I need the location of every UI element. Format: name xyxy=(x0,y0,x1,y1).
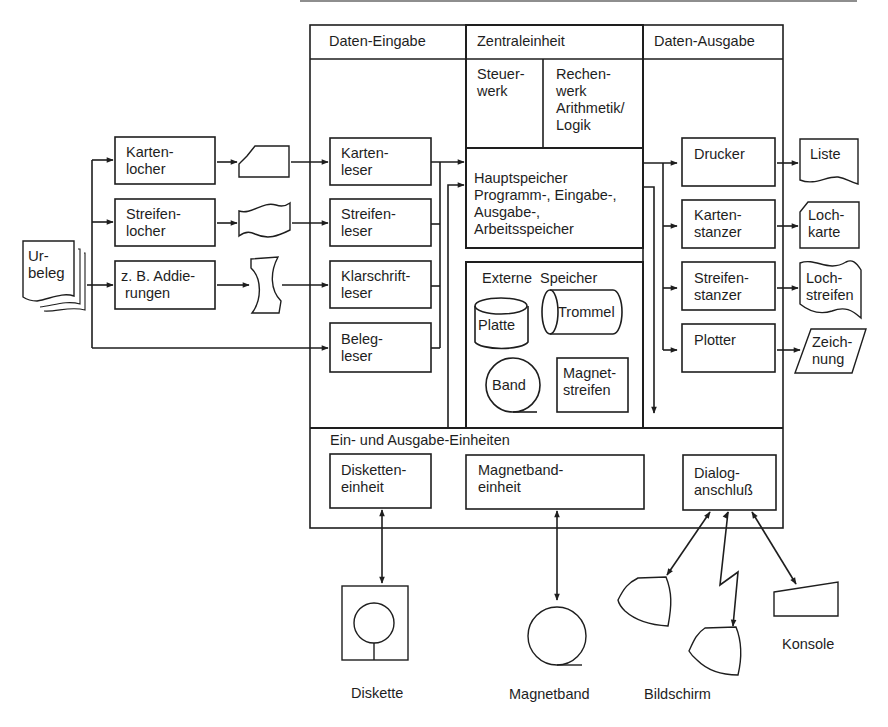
output-section-header: Daten-Ausgabe xyxy=(654,33,755,50)
computer-architecture-diagram xyxy=(0,0,888,727)
tape-punch-label: Streifen- locher xyxy=(126,206,181,240)
printer-label: Drucker xyxy=(694,146,745,163)
magnetic-strip-label: Magnet- streifen xyxy=(563,365,616,399)
source-document-label: Ur- beleg xyxy=(28,247,65,281)
tape-unit-label: Magnetband- einheit xyxy=(478,462,563,496)
console-label: Konsole xyxy=(782,636,834,653)
drawing-output-label: Zeich- nung xyxy=(812,334,852,368)
screen-label: Bildschirm xyxy=(644,686,711,703)
tape-reel-label: Band xyxy=(492,377,526,394)
magnetic-tape-label: Magnetband xyxy=(509,686,590,703)
disk-icon-top xyxy=(475,298,527,314)
punched-card-output-label: Loch- karte xyxy=(808,207,844,241)
drum-icon-end xyxy=(542,290,558,334)
adding-machine-label: z. B. Addie- rungen xyxy=(121,268,195,302)
drum-label: Trommel xyxy=(558,304,615,321)
punched-card-icon xyxy=(239,146,289,177)
ocr-reader-label: Klarschrift- leser xyxy=(341,268,410,302)
magnetic-tape-icon xyxy=(528,607,586,665)
disk-label: Platte xyxy=(478,317,515,334)
document-reader-label: Beleg- leser xyxy=(341,331,383,365)
punched-tape-output-label: Loch- streifen xyxy=(806,270,854,304)
paper-strip-icon xyxy=(251,257,281,313)
card-punch-label: Karten- locher xyxy=(126,144,174,178)
external-storage-title: Externe Speicher xyxy=(482,270,597,287)
io-to-memory-line xyxy=(448,185,464,428)
dialog-port-label: Dialog- anschluß xyxy=(694,465,753,499)
plotter-label: Plotter xyxy=(694,332,736,349)
main-memory-label: Hauptspeicher Programm-, Eingabe-, Ausga… xyxy=(474,170,617,238)
io-section-header: Ein- und Ausgabe-Einheiten xyxy=(330,432,510,449)
cpu-section-header: Zentraleinheit xyxy=(477,33,565,50)
tape-punch-out-label: Streifen- stanzer xyxy=(694,270,749,304)
screen-icon xyxy=(618,577,671,626)
punched-tape-icon xyxy=(239,203,290,237)
tape-reader-label: Streifen- leser xyxy=(341,206,396,240)
diskette-unit-label: Disketten- einheit xyxy=(341,462,406,496)
console-icon xyxy=(774,582,838,616)
card-reader-label: Karten- leser xyxy=(341,145,389,179)
diskette-icon xyxy=(342,586,408,660)
screen-icon-remote xyxy=(689,627,741,675)
card-punch-out-label: Karten- stanzer xyxy=(694,207,742,241)
input-section-header: Daten-Eingabe xyxy=(329,33,426,50)
alu-label: Rechen- werk Arithmetik/ Logik xyxy=(556,66,625,134)
list-label: Liste xyxy=(810,146,841,163)
memory-to-io-line xyxy=(643,187,654,413)
control-unit-label: Steuer- werk xyxy=(477,66,525,100)
diskette-label: Diskette xyxy=(351,685,403,702)
